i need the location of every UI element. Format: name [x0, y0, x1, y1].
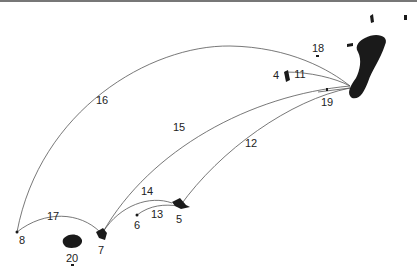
route-19-spur[interactable] [318, 88, 350, 92]
north-islet-shape [370, 14, 374, 23]
route-label-14: 14 [141, 186, 153, 197]
islet-5-shape [172, 198, 190, 209]
islet-20b-shape [71, 264, 74, 266]
route-15-arc[interactable] [103, 86, 350, 232]
northeast-islet-shape [404, 15, 407, 20]
islet-6-dot [136, 214, 139, 217]
map-graphics [0, 0, 417, 277]
islet-18-shape [316, 55, 319, 57]
island-20-shape [63, 234, 82, 248]
route-map: 11 12 14 15 16 17 13 4 5 6 7 8 18 19 20 [0, 0, 417, 277]
main-island-shape [349, 35, 386, 98]
place-label-6: 6 [134, 220, 140, 231]
route-label-12: 12 [245, 138, 257, 149]
islet-19-shape [326, 88, 328, 91]
route-label-15: 15 [173, 122, 185, 133]
place-label-8: 8 [19, 235, 25, 246]
place-label-20: 20 [66, 253, 78, 264]
west-islet-shape [347, 43, 353, 47]
place-label-7: 7 [98, 245, 104, 256]
place-label-5: 5 [176, 214, 182, 225]
route-label-17: 17 [47, 211, 59, 222]
route-label-13: 13 [151, 209, 163, 220]
route-label-16: 16 [96, 95, 108, 106]
place-label-4: 4 [273, 70, 279, 81]
route-label-11: 11 [294, 69, 305, 80]
place-label-19: 19 [321, 97, 333, 108]
place-label-18: 18 [312, 43, 324, 54]
